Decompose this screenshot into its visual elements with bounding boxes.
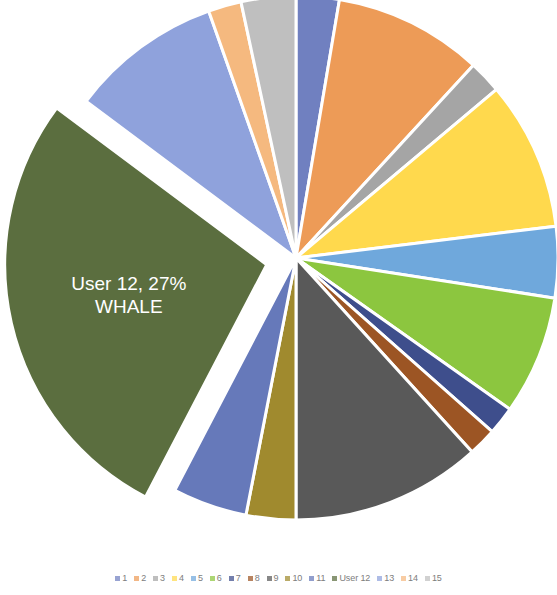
legend-item-label: 8 (255, 574, 260, 583)
legend-item[interactable]: 15 (425, 574, 442, 583)
pie-chart-figure: User 12, 27% WHALE 1234567891011User 121… (0, 0, 557, 595)
legend-swatch-icon (332, 576, 337, 581)
legend-item[interactable]: 14 (401, 574, 418, 583)
legend-swatch-icon (401, 576, 406, 581)
legend-item[interactable]: 3 (153, 574, 165, 583)
legend-item-label: 5 (198, 574, 203, 583)
legend-item-label: 10 (292, 574, 302, 583)
legend-item-label: 14 (408, 574, 418, 583)
legend-swatch-icon (134, 576, 139, 581)
legend-item-label: 9 (274, 574, 279, 583)
legend-item[interactable]: 5 (191, 574, 203, 583)
legend-swatch-icon (248, 576, 253, 581)
legend-item[interactable]: 1 (115, 574, 127, 583)
legend-item-label: 15 (432, 574, 442, 583)
legend-swatch-icon (267, 576, 272, 581)
chart-legend: 1234567891011User 12131415 (0, 566, 557, 590)
legend-swatch-icon (210, 576, 215, 581)
legend-swatch-icon (191, 576, 196, 581)
legend-item-label: 6 (217, 574, 222, 583)
legend-item-label: 13 (384, 574, 394, 583)
legend-item[interactable]: 9 (267, 574, 279, 583)
exploded-slice-label-line1: User 12, 27% (71, 273, 186, 294)
legend-item-label: 11 (316, 574, 325, 583)
legend-item[interactable]: 8 (248, 574, 260, 583)
pie-slice-group (5, 0, 557, 520)
pie-plot-area: User 12, 27% WHALE (0, 0, 557, 545)
legend-swatch-icon (153, 576, 158, 581)
pie-svg: User 12, 27% WHALE (0, 0, 557, 545)
legend-item[interactable]: 6 (210, 574, 222, 583)
legend-item-label: 1 (122, 574, 127, 583)
legend-item-label: 2 (141, 574, 146, 583)
legend-item[interactable]: 11 (309, 574, 325, 583)
legend-item-label: 7 (236, 574, 241, 583)
legend-item[interactable]: 4 (172, 574, 184, 583)
legend-swatch-icon (229, 576, 234, 581)
legend-item-label: User 12 (339, 574, 370, 583)
legend-item[interactable]: 10 (285, 574, 302, 583)
exploded-slice-label-line2: WHALE (95, 296, 163, 317)
legend-swatch-icon (285, 576, 290, 581)
legend-swatch-icon (309, 576, 314, 581)
legend-item-label: 3 (160, 574, 165, 583)
legend-swatch-icon (172, 576, 177, 581)
legend-swatch-icon (115, 576, 120, 581)
legend-item[interactable]: User 12 (332, 574, 370, 583)
legend-item[interactable]: 2 (134, 574, 146, 583)
legend-item[interactable]: 7 (229, 574, 241, 583)
legend-item[interactable]: 13 (377, 574, 394, 583)
legend-item-label: 4 (179, 574, 184, 583)
legend-swatch-icon (377, 576, 382, 581)
legend-swatch-icon (425, 576, 430, 581)
